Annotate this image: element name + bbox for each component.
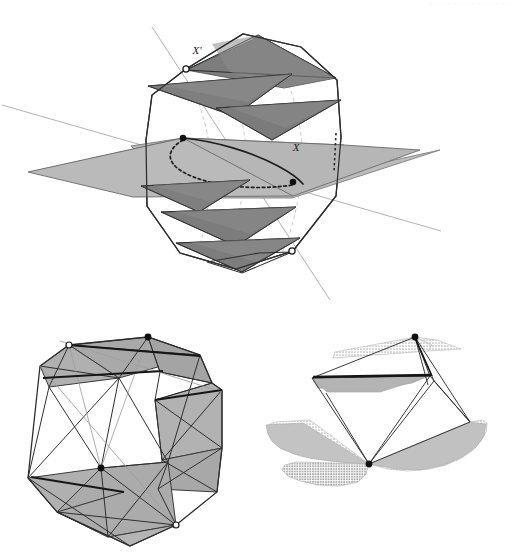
- label-x-prime: X': [191, 44, 202, 56]
- br-fan-right-wide: [369, 422, 486, 470]
- vertex-x-upper-filled: [180, 135, 187, 142]
- figure-bottom-right: [266, 334, 487, 486]
- figure-plate: X' X: [0, 0, 525, 560]
- br-vertex-base-filled: [366, 461, 373, 468]
- vertex-x-prime: [183, 66, 189, 72]
- vertex-x-lower-filled: [290, 179, 297, 186]
- bl-vertex-bottom-right-open: [173, 522, 179, 528]
- br-vertex-apex-filled: [412, 334, 419, 341]
- bl-vertex-top-left-open: [66, 342, 72, 348]
- figure-bottom-left: [28, 334, 222, 546]
- br-fan-upper-mid-b: [312, 376, 430, 392]
- br-fan-bottom-left: [282, 462, 369, 486]
- vertex-lower-open: [289, 248, 295, 254]
- label-x: X: [292, 141, 301, 153]
- bl-vertex-top-right-filled: [145, 334, 152, 341]
- figure-top: X' X: [2, 27, 441, 300]
- bl-vertex-mid-filled: [98, 465, 105, 472]
